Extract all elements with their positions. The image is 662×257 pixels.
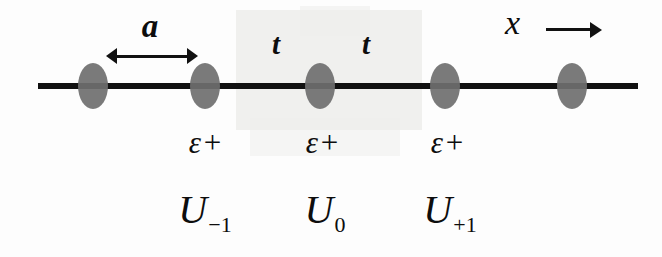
potential-label-plus-one: U+1 — [423, 190, 476, 236]
hopping-label-right: t — [362, 30, 370, 59]
arrow-head-right-icon — [590, 22, 602, 38]
arrow-shaft — [111, 55, 193, 58]
plus-symbol: + — [321, 125, 338, 160]
plus-symbol: + — [204, 125, 221, 160]
epsilon-symbol: ε — [306, 125, 318, 160]
lattice-constant-arrow — [106, 47, 198, 65]
plus-symbol: + — [446, 125, 463, 160]
potential-subscript: −1 — [208, 212, 231, 237]
onsite-energy-label: ε+ — [306, 127, 339, 158]
scan-artifact-band — [300, 6, 370, 36]
potential-label-minus-one: U−1 — [178, 190, 231, 236]
lattice-site — [190, 63, 220, 109]
potential-symbol: U — [423, 187, 452, 232]
epsilon-symbol: ε — [189, 125, 201, 160]
potential-subscript: 0 — [334, 212, 345, 237]
lattice-site — [305, 63, 335, 109]
potential-symbol: U — [305, 187, 334, 232]
epsilon-symbol: ε — [431, 125, 443, 160]
hopping-label-left: t — [272, 30, 280, 59]
arrow-head-right-icon — [187, 48, 198, 64]
lattice-site — [430, 63, 460, 109]
x-axis-arrow-icon — [546, 22, 602, 38]
lattice-site — [78, 63, 108, 109]
onsite-energy-label: ε+ — [189, 127, 222, 158]
tight-binding-lattice-diagram: a t t x ε+ ε+ ε+ U−1 U0 U+1 — [0, 0, 662, 257]
lattice-site — [557, 63, 587, 109]
lattice-axis-line — [38, 83, 638, 89]
arrow-shaft — [546, 28, 593, 31]
potential-symbol: U — [178, 187, 207, 232]
x-axis-label: x — [505, 6, 520, 40]
onsite-energy-label: ε+ — [431, 127, 464, 158]
potential-label-zero: U0 — [305, 190, 346, 236]
lattice-constant-label: a — [142, 10, 159, 43]
potential-subscript: +1 — [453, 212, 476, 237]
